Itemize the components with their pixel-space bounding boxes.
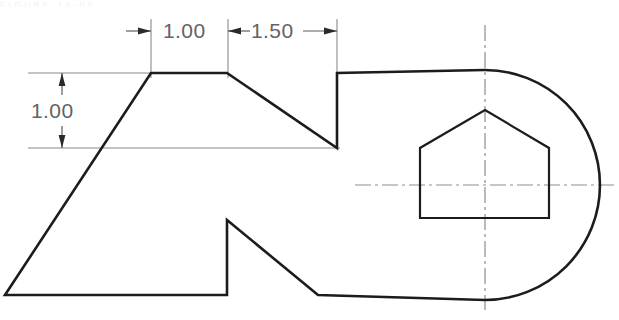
dimension-h1-label: 1.00 [163, 20, 205, 41]
dimension-h2-arrow-left [228, 28, 241, 35]
dimension-h1-arrow-right [138, 28, 151, 35]
dimension-v1-arrow-down [59, 135, 66, 148]
dimension-h2-arrow-right [324, 28, 337, 35]
centerlines-group [355, 25, 616, 310]
dimension-v1-arrow-up [59, 73, 66, 86]
technical-drawing-canvas: FIGURE 16-05 [0, 0, 619, 320]
dimension-v1-label: 1.00 [31, 100, 73, 121]
dimension-h1-group [126, 28, 151, 35]
drawing-svg [0, 0, 619, 320]
dimension-h2-label: 1.50 [251, 20, 293, 41]
